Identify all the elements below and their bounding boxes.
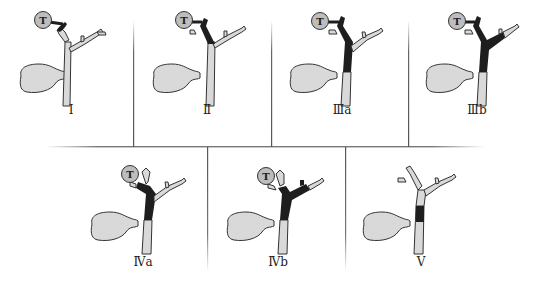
svg-text:T: T <box>316 16 324 27</box>
classification-figure: T Ⅰ T Ⅱ T Ⅲa T Ⅲb <box>0 0 538 290</box>
type-label-IVa: Ⅳa <box>123 255 163 269</box>
type-label-IVb: Ⅳb <box>258 255 298 269</box>
type-label-II: Ⅱ <box>187 103 227 117</box>
svg-text:T: T <box>262 171 270 182</box>
svg-text:T: T <box>180 15 188 26</box>
svg-text:T: T <box>126 169 134 180</box>
svg-text:T: T <box>39 15 47 26</box>
svg-text:T: T <box>453 16 461 27</box>
type-label-I: Ⅰ <box>51 103 91 117</box>
type-label-V: Ⅴ <box>401 255 441 269</box>
type-label-IIIa: Ⅲa <box>322 103 362 117</box>
type-label-IIIb: Ⅲb <box>457 103 497 117</box>
